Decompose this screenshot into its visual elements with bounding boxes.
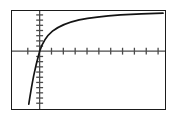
chart-screenshot [0,0,173,120]
log-curve-plot [12,11,165,109]
plot-frame [11,10,166,110]
log-curve [29,13,163,104]
